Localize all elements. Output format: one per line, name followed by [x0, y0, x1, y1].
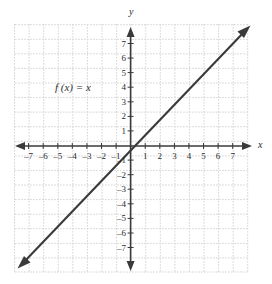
x-tick-label-2: 2 — [158, 152, 163, 161]
x-tick-label--7: –7 — [24, 152, 33, 161]
coordinate-plane-svg — [0, 0, 272, 284]
y-tick-label--7: –7 — [117, 243, 126, 252]
function-equation-label: f (x) = x — [55, 82, 91, 93]
y-tick-label-4: 4 — [122, 83, 127, 92]
x-tick-label--5: –5 — [53, 152, 62, 161]
x-tick-label--4: –4 — [68, 152, 77, 161]
x-tick-label-3: 3 — [172, 152, 177, 161]
x-tick-label-1: 1 — [143, 152, 148, 161]
y-tick-label-2: 2 — [122, 112, 127, 121]
y-axis-label: y — [129, 7, 133, 17]
x-tick-label--3: –3 — [82, 152, 91, 161]
y-tick-label--3: –3 — [117, 185, 126, 194]
x-tick-label--2: –2 — [97, 152, 106, 161]
x-tick-label-4: 4 — [187, 152, 192, 161]
y-tick-label--1: –1 — [117, 156, 126, 165]
x-tick-label-5: 5 — [201, 152, 206, 161]
y-tick-label-5: 5 — [122, 68, 127, 77]
y-tick-label--2: –2 — [117, 170, 126, 179]
x-tick-label--6: –6 — [39, 152, 48, 161]
y-tick-label-3: 3 — [122, 97, 127, 106]
y-tick-label-6: 6 — [122, 54, 127, 63]
x-tick-label-6: 6 — [216, 152, 221, 161]
x-axis-label: x — [258, 140, 262, 150]
y-tick-label-1: 1 — [122, 126, 127, 135]
graph-figure: –7 –6 –5 –4 –3 –2 –1 1 2 3 4 5 6 7 7 6 5… — [0, 0, 272, 284]
y-tick-label--6: –6 — [117, 229, 126, 238]
function-line-fx-equals-x — [18, 26, 251, 269]
y-tick-label--5: –5 — [117, 214, 126, 223]
x-tick-label-7: 7 — [230, 152, 235, 161]
y-tick-label-7: 7 — [122, 39, 127, 48]
y-tick-label--4: –4 — [117, 199, 126, 208]
